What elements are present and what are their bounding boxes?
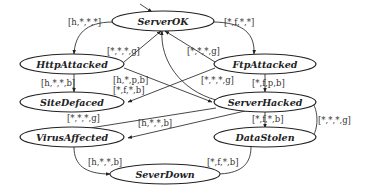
label-serverok-ftpattacked: [*,f,*,*] bbox=[224, 17, 254, 27]
svg-text:DataStolen: DataStolen bbox=[234, 132, 294, 143]
label-virusaffected-severdown: [h,*,*,b] bbox=[88, 157, 122, 167]
label-virusaffected-serverok: [*,*,*,g] bbox=[67, 113, 100, 123]
state-httpattacked: HttpAttacked bbox=[20, 54, 124, 74]
label-ftpattacked-sitedefaced: [*,f,*,b] bbox=[113, 85, 145, 95]
label-serverhacked-serverok: [*,*,*,g] bbox=[201, 75, 234, 85]
svg-text:ServerHacked: ServerHacked bbox=[228, 97, 303, 108]
svg-text:SiteDefaced: SiteDefaced bbox=[40, 97, 104, 108]
state-datastolen: DataStolen bbox=[214, 127, 316, 147]
svg-text:SeverDown: SeverDown bbox=[135, 169, 194, 180]
state-serverhacked: ServerHacked bbox=[214, 92, 316, 112]
label-ftpattacked-serverhacked: [*,f,p,b] bbox=[252, 78, 285, 88]
svg-text:VirusAffected: VirusAffected bbox=[36, 132, 109, 143]
state-diagram: ServerOK HttpAttacked FtpAttacked SiteDe… bbox=[0, 0, 365, 192]
state-sitedefaced: SiteDefaced bbox=[20, 92, 124, 112]
state-serverok: ServerOK bbox=[112, 11, 214, 31]
label-serverhacked-virusaffected: [h,*,*,b] bbox=[138, 118, 172, 128]
label-httpattacked-serverok: [*,*,*,g] bbox=[107, 46, 140, 56]
label-ftpattacked-serverok: [*,*,*,g] bbox=[187, 46, 220, 56]
label-datastolen-serverhacked: [*,*,*,g] bbox=[318, 115, 351, 125]
state-ftpattacked: FtpAttacked bbox=[214, 54, 316, 74]
svg-text:HttpAttacked: HttpAttacked bbox=[35, 59, 108, 70]
svg-text:ServerOK: ServerOK bbox=[137, 16, 189, 27]
edge-serverhacked-serverok bbox=[162, 31, 216, 100]
label-httpattacked-serverhacked: [h,*,p,b] bbox=[113, 75, 148, 85]
state-severdown: SeverDown bbox=[110, 164, 220, 184]
svg-text:FtpAttacked: FtpAttacked bbox=[232, 59, 298, 70]
label-serverhacked-datastolen: [*,f,*,b] bbox=[252, 114, 284, 124]
state-virusaffected: VirusAffected bbox=[20, 127, 124, 147]
label-httpattacked-sitedefaced: [h,*,*,b] bbox=[41, 78, 75, 88]
label-datastolen-severdown: [*,f,*,b] bbox=[207, 157, 239, 167]
label-serverok-httpattacked: [h,*,*,*] bbox=[68, 17, 101, 27]
